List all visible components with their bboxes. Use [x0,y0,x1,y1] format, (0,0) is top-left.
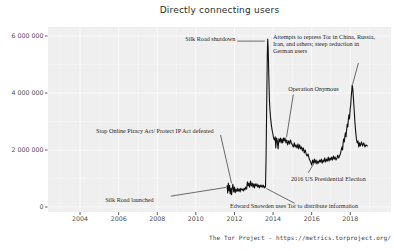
plot-canvas: 02 000 0004 000 0006 000 000200420062008… [0,0,394,251]
annotation-text-silk-road-shutdown: Silk Road shutdown [185,35,235,42]
annotation-text-snowden: Edward Snowden uses Tor to distribute in… [230,202,358,209]
annotation-text-silk-road-launched: Silk Road launched [105,196,154,203]
x-tick-label: 2014 [265,215,281,222]
y-tick-label: 6 000 000 [11,32,43,39]
x-tick-label: 2008 [149,215,165,222]
x-tick-label: 2012 [226,215,242,222]
annotation-text-election-2016: 2016 US Presidential Election [291,175,366,182]
chart-title: Directly connecting users [48,5,391,15]
y-tick-label: 0 [39,203,43,210]
chart-caption: The Tor Project - https://metrics.torpro… [209,234,391,241]
y-tick-label: 2 000 000 [11,146,43,153]
annotation-text-sopa-pipa-defeated: Stop Online Piracy Act/ Protect IP Act d… [96,127,214,134]
x-tick-label: 2016 [304,215,320,222]
x-tick-label: 2010 [188,215,204,222]
x-tick-label: 2006 [111,215,127,222]
x-tick-label: 2004 [72,215,88,222]
annotation-text-operation-onymous: Operation Onymous [288,85,339,92]
tor-metrics-chart: 02 000 0004 000 0006 000 000200420062008… [0,0,394,251]
y-tick-label: 4 000 000 [11,89,43,96]
x-tick-label: 2018 [342,215,358,222]
